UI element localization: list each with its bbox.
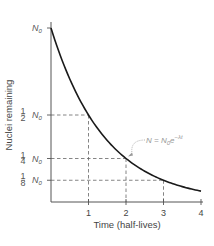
x-axis-title: Time (half-lives)	[93, 219, 160, 230]
y-tick-label: 18N0	[20, 171, 42, 188]
arrowhead-icon	[128, 153, 133, 157]
svg-text:8: 8	[20, 178, 25, 188]
svg-text:N0: N0	[32, 23, 43, 34]
y-tick-label: 12N0	[20, 106, 42, 123]
y-tick-label: N0	[32, 23, 43, 34]
svg-text:4: 4	[20, 156, 25, 166]
x-tick-label: 2	[123, 208, 128, 218]
axes	[51, 22, 203, 202]
dashed-guide-lines	[51, 115, 164, 202]
svg-text:2: 2	[20, 113, 25, 123]
decay-chart: 1234 N012N014N018N0 N = N0e−λt Time (hal…	[0, 0, 214, 246]
equation-label: N = N0e−λt	[146, 134, 183, 146]
x-tick-label: 1	[86, 208, 91, 218]
x-tick-label: 4	[198, 208, 203, 218]
svg-text:N0: N0	[32, 154, 43, 165]
y-ticks: N012N014N018N0	[20, 23, 51, 188]
svg-text:N0: N0	[32, 175, 43, 186]
x-tick-label: 3	[161, 208, 166, 218]
y-tick-label: 14N0	[20, 150, 42, 167]
y-axis-title: Nuclei remaining	[3, 80, 14, 151]
svg-text:N0: N0	[32, 110, 43, 121]
annotation-arrow	[132, 140, 145, 154]
equation-annotation: N = N0e−λt	[128, 134, 183, 157]
